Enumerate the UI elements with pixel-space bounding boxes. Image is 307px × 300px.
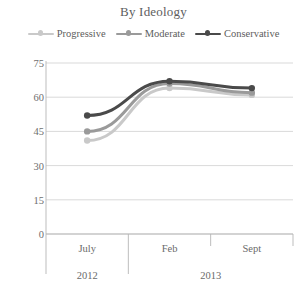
data-point-progressive[interactable]	[84, 137, 90, 143]
plot-svg	[0, 0, 307, 300]
x-axis-group-label: 2013	[200, 270, 221, 281]
data-point-moderate[interactable]	[84, 128, 90, 134]
data-point-conservative[interactable]	[249, 85, 255, 91]
series-line-progressive	[87, 88, 252, 140]
x-axis-group-label: 2012	[77, 270, 98, 281]
data-point-conservative[interactable]	[166, 78, 172, 84]
x-axis-category-label: Feb	[162, 243, 178, 254]
data-point-conservative[interactable]	[84, 112, 90, 118]
x-axis-category-label: Sept	[242, 243, 261, 254]
x-axis-category-label: July	[78, 243, 96, 254]
chart-container: By Ideology Progressive Moderate Conserv…	[0, 0, 307, 300]
